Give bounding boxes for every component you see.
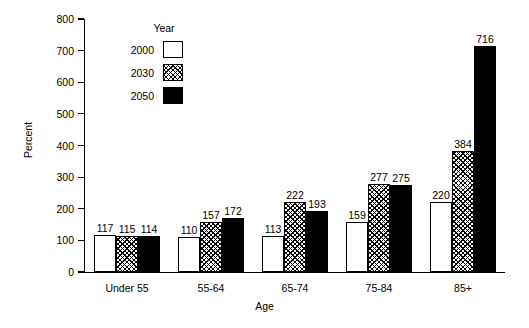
x-group-label-Under-55: Under 55 <box>85 282 169 294</box>
y-tick-mark <box>78 208 84 209</box>
y-tick-mark <box>78 82 84 83</box>
legend-swatch-2000 <box>163 41 183 58</box>
y-tick-mark <box>78 18 84 19</box>
bar-value-label: 220 <box>432 190 450 201</box>
bar-value-label: 275 <box>392 173 410 184</box>
bar-value-label: 222 <box>286 190 304 201</box>
x-group-label-75-84: 75-84 <box>337 282 421 294</box>
bar-chart: 0100200300400500600700800 Percent Age 11… <box>0 0 529 328</box>
y-tick-label: 400 <box>44 140 74 152</box>
x-axis-title: Age <box>0 300 529 312</box>
legend-entry-2000: 2000 <box>118 41 204 58</box>
y-tick-label: 100 <box>44 234 74 246</box>
x-group-label-65-74: 65-74 <box>253 282 337 294</box>
bar-value-label: 193 <box>308 199 326 210</box>
legend-swatch-2030 <box>163 64 183 81</box>
bar-2050-85+: 716 <box>474 46 496 272</box>
x-group-label-55-64: 55-64 <box>169 282 253 294</box>
bar-2050-75-84: 275 <box>390 185 412 272</box>
bar-value-label: 159 <box>348 210 366 221</box>
y-tick-label: 500 <box>44 108 74 120</box>
bar-value-label: 157 <box>202 210 220 221</box>
bar-value-label: 115 <box>119 224 136 235</box>
y-tick-mark <box>78 240 84 241</box>
bar-value-label: 117 <box>97 223 114 234</box>
legend-entry-label: 2000 <box>118 44 154 56</box>
bar-2050-55-64: 172 <box>222 218 244 272</box>
y-tick-mark <box>78 271 84 272</box>
x-axis-line <box>84 272 505 273</box>
y-tick-label: 300 <box>44 171 74 183</box>
bar-value-label: 277 <box>370 172 388 183</box>
bar-2030-Under-55: 115 <box>116 236 138 272</box>
y-tick-label: 200 <box>44 203 74 215</box>
bar-2000-75-84: 159 <box>346 222 368 272</box>
bar-value-label: 110 <box>181 225 198 236</box>
bar-2000-65-74: 113 <box>262 236 284 272</box>
y-tick-label: 600 <box>44 76 74 88</box>
y-axis-title: Percent <box>22 100 34 180</box>
legend-entry-label: 2030 <box>118 67 154 79</box>
legend-title: Year <box>124 22 204 34</box>
y-axis-line <box>84 19 85 272</box>
legend-entry-2050: 2050 <box>118 87 204 104</box>
bar-2030-55-64: 157 <box>200 222 222 272</box>
bar-2050-65-74: 193 <box>306 211 328 272</box>
legend-entry-label: 2050 <box>118 90 154 102</box>
x-group-label-85+: 85+ <box>421 282 505 294</box>
y-tick-mark <box>78 113 84 114</box>
bar-value-label: 114 <box>141 224 158 235</box>
bar-2030-65-74: 222 <box>284 202 306 272</box>
legend-swatch-2050 <box>163 87 183 104</box>
chart-legend: Year 200020302050 <box>118 22 204 110</box>
bar-value-label: 384 <box>454 139 472 150</box>
y-tick-mark <box>78 50 84 51</box>
y-tick-mark <box>78 145 84 146</box>
bar-value-label: 113 <box>265 224 282 235</box>
y-tick-label: 800 <box>44 13 74 25</box>
y-tick-label: 700 <box>44 45 74 57</box>
bar-2000-55-64: 110 <box>178 237 200 272</box>
legend-entry-2030: 2030 <box>118 64 204 81</box>
y-tick-mark <box>78 177 84 178</box>
bar-2050-Under-55: 114 <box>138 236 160 272</box>
y-tick-label: 0 <box>44 266 74 278</box>
bar-value-label: 716 <box>476 34 494 45</box>
bar-2030-75-84: 277 <box>368 184 390 272</box>
bar-2000-85+: 220 <box>430 202 452 272</box>
bar-2000-Under-55: 117 <box>94 235 116 272</box>
bar-value-label: 172 <box>224 206 242 217</box>
legend-entries: 200020302050 <box>118 41 204 104</box>
bar-2030-85+: 384 <box>452 151 474 272</box>
